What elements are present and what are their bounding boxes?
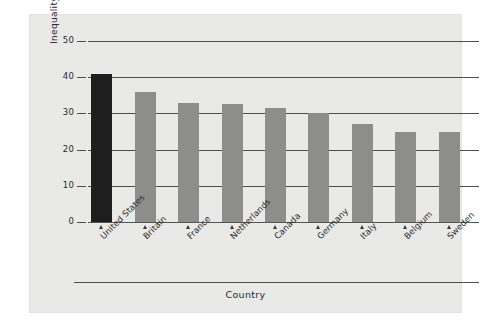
y-tick-label: 30	[48, 107, 74, 117]
y-tick-label: 20	[48, 144, 74, 154]
y-tick-label: 50	[48, 35, 74, 45]
x-tick-label: Italy	[358, 221, 378, 241]
y-tick-mark	[77, 77, 86, 78]
plot-area	[88, 41, 479, 222]
x-axis-rule	[74, 282, 479, 283]
bar	[308, 113, 329, 222]
bar	[352, 124, 373, 222]
chart-panel: Inequality 01020304050 United StatesBrit…	[30, 15, 461, 312]
gridline	[88, 77, 479, 78]
bar	[395, 132, 416, 222]
y-tick-mark	[77, 222, 86, 223]
x-axis-title: Country	[30, 289, 461, 300]
y-tick-label: 40	[48, 71, 74, 81]
bar	[91, 74, 112, 222]
bar	[439, 132, 460, 222]
figure: Inequality 01020304050 United StatesBrit…	[0, 0, 491, 327]
y-tick-mark	[77, 113, 86, 114]
y-tick-label: 10	[48, 180, 74, 190]
y-tick-mark	[77, 150, 86, 151]
y-tick-label: 0	[48, 216, 74, 226]
bar	[178, 103, 199, 222]
y-tick-mark	[77, 41, 86, 42]
bar	[222, 104, 243, 222]
y-tick-mark	[77, 186, 86, 187]
gridline	[88, 41, 479, 42]
